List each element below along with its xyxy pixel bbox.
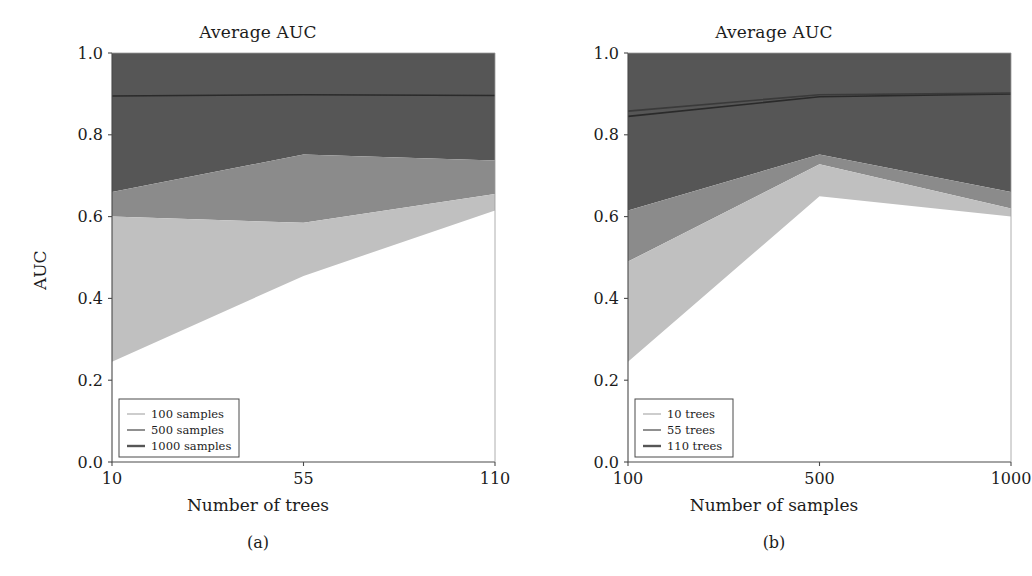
legend-label: 1000 samples [151, 439, 231, 453]
legend-label: 55 trees [667, 423, 715, 437]
legend-a: 100 samples500 samples1000 samples [119, 399, 239, 457]
figure-container: Average AUC AUC Number of trees (a) 0.00… [0, 0, 1032, 576]
y-tick-label: 0.6 [594, 207, 619, 226]
legend-label: 10 trees [667, 407, 715, 421]
y-tick-label: 0.6 [78, 207, 103, 226]
y-tick-label: 0.2 [78, 371, 103, 390]
y-tick-label: 0.4 [594, 289, 619, 308]
y-tick-label: 0.2 [594, 371, 619, 390]
y-tick-label: 1.0 [594, 44, 619, 63]
legend-label: 100 samples [151, 407, 224, 421]
panel-b-plot: 0.00.20.40.60.81.0100500100010 trees55 t… [516, 0, 1032, 576]
x-tick-label: 1000 [991, 469, 1032, 488]
y-tick-label: 1.0 [78, 44, 103, 63]
legend-label: 110 trees [667, 439, 722, 453]
x-tick-label: 100 [613, 469, 644, 488]
x-tick-label: 55 [293, 469, 313, 488]
y-tick-label: 0.8 [594, 125, 619, 144]
y-tick-label: 0.0 [78, 453, 103, 472]
legend-b: 10 trees55 trees110 trees [635, 399, 733, 457]
x-tick-label: 110 [480, 469, 511, 488]
y-tick-label: 0.8 [78, 125, 103, 144]
legend-label: 500 samples [151, 423, 224, 437]
x-tick-label: 10 [102, 469, 122, 488]
chart-panel-b: Average AUC AUC Number of samples (b) 0.… [516, 0, 1032, 576]
chart-panel-a: Average AUC AUC Number of trees (a) 0.00… [0, 0, 516, 576]
panel-a-plot: 0.00.20.40.60.81.01055110100 samples500 … [0, 0, 516, 576]
x-tick-label: 500 [804, 469, 835, 488]
y-tick-label: 0.4 [78, 289, 103, 308]
